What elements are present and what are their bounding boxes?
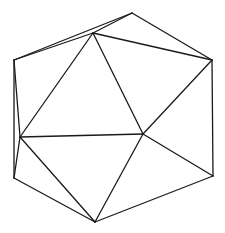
edge-EI xyxy=(20,137,95,222)
edge-BD xyxy=(93,33,212,60)
edge-GI xyxy=(14,178,95,222)
icosahedron-wireframe xyxy=(0,0,225,233)
edge-DH xyxy=(212,60,213,176)
edge-HI xyxy=(95,176,213,222)
edge-BC xyxy=(14,33,93,60)
edge-EG xyxy=(14,137,20,178)
edge-FI xyxy=(95,134,143,222)
edge-FH xyxy=(143,134,213,176)
edge-AD xyxy=(132,13,212,60)
edge-DF xyxy=(143,60,212,134)
edge-BF xyxy=(93,33,143,134)
icosahedron-diagram xyxy=(0,0,225,233)
edge-EF xyxy=(20,134,143,137)
edge-BE xyxy=(20,33,93,137)
edge-AC xyxy=(14,13,132,60)
edge-AB xyxy=(93,13,132,33)
edge-CE xyxy=(14,60,20,137)
